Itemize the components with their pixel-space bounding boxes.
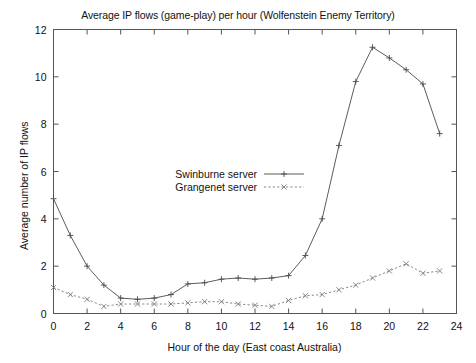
y-tick-label: 10 xyxy=(35,71,47,83)
x-tick-label: 8 xyxy=(185,320,191,332)
data-point xyxy=(185,300,190,305)
data-point xyxy=(84,297,89,302)
data-point xyxy=(51,196,57,202)
x-tick-label: 20 xyxy=(383,320,395,332)
data-point xyxy=(387,268,392,273)
x-tick-label: 10 xyxy=(216,320,228,332)
data-point xyxy=(404,261,409,266)
legend-label-1: Swinburne server xyxy=(175,168,257,180)
x-tick-label: 4 xyxy=(118,320,124,332)
y-tick-label: 8 xyxy=(41,118,47,130)
y-tick-label: 6 xyxy=(41,166,47,178)
data-point xyxy=(68,292,73,297)
y-tick-label: 12 xyxy=(35,24,47,36)
x-tick-label: 18 xyxy=(350,320,362,332)
data-point xyxy=(336,142,342,148)
data-point xyxy=(420,271,425,276)
data-point xyxy=(202,280,208,286)
x-tick-label: 14 xyxy=(283,320,295,332)
data-point xyxy=(303,293,308,298)
x-tick-label: 12 xyxy=(249,320,261,332)
data-point xyxy=(353,283,358,288)
data-point xyxy=(437,268,442,273)
chart-figure: Average IP flows (game-play) per hour (W… xyxy=(0,0,476,363)
x-tick-label: 24 xyxy=(451,320,463,332)
series-line-2 xyxy=(54,264,440,307)
data-point xyxy=(286,298,291,303)
data-point xyxy=(281,171,287,177)
x-tick-label: 22 xyxy=(417,320,429,332)
x-axis-label: Hour of the day (East coast Australia) xyxy=(0,341,476,353)
x-tick-label: 16 xyxy=(316,320,328,332)
data-point xyxy=(370,44,376,50)
data-point xyxy=(101,304,106,309)
data-point xyxy=(202,299,207,304)
data-point xyxy=(437,131,443,137)
y-tick-label: 4 xyxy=(41,213,47,225)
y-tick-label: 0 xyxy=(41,308,47,320)
data-point xyxy=(320,292,325,297)
data-point xyxy=(336,287,341,292)
data-point xyxy=(67,232,73,238)
data-point xyxy=(168,292,174,298)
data-point xyxy=(218,276,224,282)
x-tick-label: 2 xyxy=(84,320,90,332)
data-point xyxy=(370,275,375,280)
data-point xyxy=(386,55,392,61)
legend-label-2: Grangenet server xyxy=(175,181,257,193)
data-point xyxy=(252,276,258,282)
chart-legend: Swinburne serverGrangenet server xyxy=(175,168,304,193)
data-point xyxy=(235,275,241,281)
plot-canvas: 024681012141618202224024681012 Swinburne… xyxy=(0,0,476,363)
data-point xyxy=(185,281,191,287)
data-point xyxy=(353,79,359,85)
data-point xyxy=(269,275,275,281)
y-axis-label: Average number of IP flows xyxy=(18,121,30,250)
data-point xyxy=(151,295,157,301)
y-tick-label: 2 xyxy=(41,260,47,272)
data-point xyxy=(118,301,123,306)
x-tick-label: 0 xyxy=(51,320,57,332)
data-point xyxy=(319,216,325,222)
x-tick-label: 6 xyxy=(151,320,157,332)
